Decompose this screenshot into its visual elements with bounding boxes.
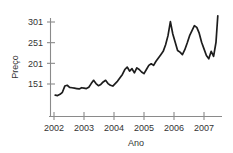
- x-tick-label: 2003: [74, 123, 94, 133]
- y-tick-label: 201: [28, 59, 43, 69]
- y-axis-title: Preço: [10, 55, 20, 79]
- x-tick-label: 2002: [44, 123, 64, 133]
- x-tick-label: 2006: [164, 123, 184, 133]
- chart-figure: 151201251301 Preço 200220032004200520062…: [0, 0, 233, 153]
- x-tick-label: 2004: [104, 123, 124, 133]
- y-tick-label: 301: [28, 17, 43, 27]
- x-tick-label: 2007: [194, 123, 214, 133]
- x-axis-title: Ano: [128, 138, 144, 148]
- x-tick-label: 2005: [134, 123, 154, 133]
- y-tick-label: 251: [28, 38, 43, 48]
- line-chart-svg: 151201251301 Preço 200220032004200520062…: [0, 0, 233, 153]
- y-tick-label: 151: [28, 79, 43, 89]
